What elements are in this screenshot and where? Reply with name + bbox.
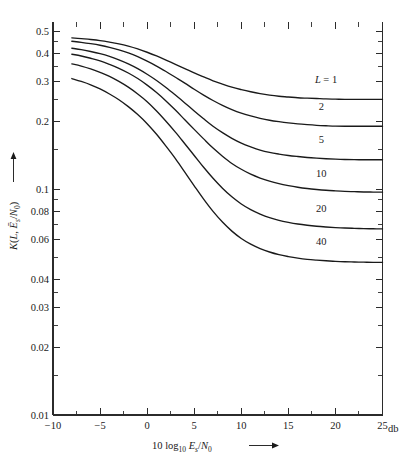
- y-tick-label: 0.02: [31, 342, 49, 353]
- y-tick-label: 0.2: [36, 116, 49, 127]
- y-axis-ticks: [53, 31, 383, 415]
- x-axis-unit: db: [388, 423, 399, 434]
- curve-L-5: [72, 48, 383, 160]
- y-tick-label: 0.1: [36, 184, 49, 195]
- figure-container: 0.50.40.30.20.10.080.060.040.030.020.01 …: [0, 0, 416, 461]
- x-tick-label: 10: [236, 420, 247, 431]
- curve-L-20: [72, 64, 383, 229]
- curve-label-10: 10: [316, 168, 327, 179]
- x-tick-label: 20: [330, 420, 341, 431]
- curve-label-40: 40: [316, 236, 327, 247]
- y-tick-label: 0.03: [31, 302, 49, 313]
- data-curves: [72, 38, 383, 263]
- svg-text:10 log10 Es/N0: 10 log10 Es/N0: [152, 440, 212, 454]
- y-axis-title: K(L, Ēs/N0): [8, 152, 22, 251]
- x-axis-title: 10 log10 Es/N0: [152, 440, 279, 454]
- x-tick-label: 5: [192, 420, 197, 431]
- y-axis-tick-labels: 0.50.40.30.20.10.080.060.040.030.020.01: [31, 26, 50, 421]
- svg-text:K(L, Ēs/N0): K(L, Ēs/N0): [8, 201, 22, 251]
- y-axis-minor-ticks: [53, 42, 383, 376]
- y-tick-label: 0.06: [31, 234, 49, 245]
- x-title-prefix: 10 log: [152, 440, 179, 451]
- y-tick-label: 0.08: [31, 206, 49, 217]
- curve-label-20: 20: [316, 203, 327, 214]
- x-tick-label: 15: [283, 420, 294, 431]
- curve-series-labels: L = 125102040: [314, 74, 337, 247]
- x-unit-label: db: [388, 423, 399, 434]
- x-tick-label: 0: [145, 420, 150, 431]
- log-linear-chart: 0.50.40.30.20.10.080.060.040.030.020.01 …: [0, 0, 416, 461]
- curve-label-1: L = 1: [314, 74, 337, 85]
- y-tick-label: 0.5: [36, 26, 49, 37]
- curve-L-40: [72, 79, 383, 263]
- x-axis-tick-labels: −10−50510152025: [45, 420, 388, 431]
- y-tick-label: 0.3: [36, 76, 49, 87]
- x-tick-label: −5: [94, 420, 105, 431]
- y-tick-label: 0.4: [36, 48, 50, 59]
- y-tick-label: 0.04: [31, 274, 50, 285]
- x-tick-label: −10: [45, 420, 61, 431]
- x-tick-label: 25: [377, 420, 388, 431]
- x-title-denominator-sub: 0: [208, 445, 212, 454]
- curve-label-5: 5: [319, 134, 324, 145]
- curve-label-2: 2: [319, 101, 324, 112]
- x-title-arrow-head: [272, 443, 279, 449]
- y-title-arrow-head: [11, 152, 17, 159]
